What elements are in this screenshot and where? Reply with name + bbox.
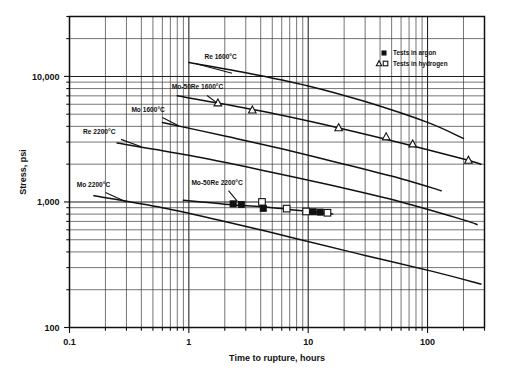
y-tick-label-2: 10,000 [32, 72, 60, 82]
legend-marker-open-square [383, 61, 388, 66]
markers-layer [214, 99, 472, 216]
chart-canvas: Re 1600°CMo-50Re 1600°CMo 1600°CRe 2200°… [0, 0, 507, 385]
data-marker-open-square [283, 205, 290, 212]
data-marker-filled-square [230, 201, 236, 207]
legend-label-0: Tests in argon [393, 49, 436, 57]
data-marker-open-triangle [409, 140, 417, 147]
data-marker-filled-square [310, 209, 316, 215]
curve-label-0: Re 1600°C [204, 53, 237, 60]
curve-3 [117, 143, 477, 225]
x-tick-label-0: 0.1 [63, 337, 76, 347]
data-marker-open-square [324, 209, 331, 216]
x-tick-label-1: 1 [186, 337, 191, 347]
data-marker-open-square [303, 208, 310, 215]
data-marker-filled-square [260, 205, 266, 211]
curve-1 [177, 96, 481, 164]
y-axis-title: Stress, psi [18, 149, 28, 195]
axis-layer: 0.11101001001,00010,000Time to rupture, … [18, 17, 485, 363]
curve-label-leader-4 [229, 191, 238, 202]
legend-label-1: Tests in hydrogen [393, 60, 448, 68]
data-marker-filled-square [317, 209, 323, 215]
curve-label-4: Mo-50Re 2200°C [191, 179, 243, 186]
curve-label-1: Mo-50Re 1600°C [172, 83, 224, 90]
x-tick-label-2: 10 [303, 337, 313, 347]
stress-rupture-chart: Re 1600°CMo-50Re 1600°CMo 1600°CRe 2200°… [0, 0, 507, 385]
curve-label-3: Re 2200°C [83, 128, 116, 135]
data-marker-open-triangle [382, 133, 390, 140]
data-marker-filled-square [238, 201, 244, 207]
legend-marker-filled-square [382, 51, 386, 55]
legend-marker-open-triangle [376, 61, 381, 66]
data-marker-open-square [259, 199, 266, 206]
curve-label-2: Mo 1600°C [131, 106, 165, 113]
curve-label-leader-5 [105, 192, 126, 201]
curve-labels-layer: Re 1600°CMo-50Re 1600°CMo 1600°CRe 2200°… [77, 53, 243, 202]
x-axis-title: Time to rupture, hours [229, 353, 325, 363]
legend: Tests in argonTests in hydrogen [376, 49, 447, 68]
y-tick-label-1: 1,000 [37, 197, 60, 207]
x-tick-label-3: 100 [420, 337, 435, 347]
curve-label-5: Mo 2200°C [77, 181, 111, 188]
y-tick-label-0: 100 [44, 323, 59, 333]
